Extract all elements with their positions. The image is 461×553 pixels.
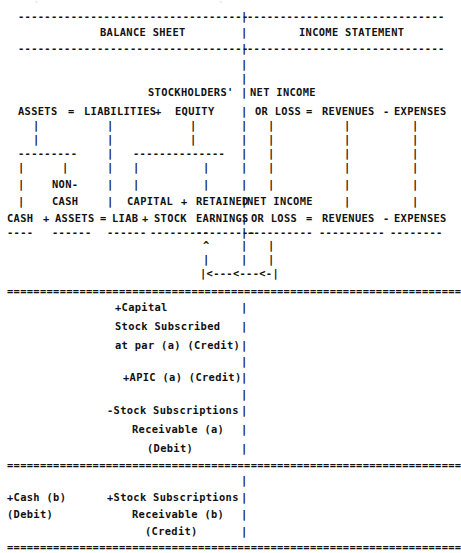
connector-expenses-3: | <box>412 147 419 159</box>
entry-b-pipe-1: | <box>241 474 248 486</box>
entry-a-line-3: at par (a) (Credit) <box>115 339 240 351</box>
plus-sign-2: + <box>181 195 188 207</box>
entry-b-left-line-2: (Debit) <box>7 508 53 520</box>
entry-b-pipe-3: | <box>241 508 248 520</box>
second-dashed-rule-left: ----------------------------------- <box>18 42 249 54</box>
leg-retained-1: | <box>203 161 210 173</box>
leg-expenses-1: | <box>412 161 419 173</box>
entry-a-line-2: Stock Subscribed <box>115 320 220 332</box>
entry-b-right-line-2: Receivable (b) <box>132 508 224 520</box>
connector-assets-2: | <box>33 133 40 145</box>
connector-netincome-3: | <box>268 147 275 159</box>
entry-a-line-5: -Stock Subscriptions <box>107 404 239 416</box>
connector-netincome-1: | <box>268 119 275 131</box>
center-divider-pipe-d: | <box>241 105 248 117</box>
underline-liab: ------ <box>107 226 147 238</box>
double-rule-1: ========================================… <box>7 285 461 297</box>
label-liab: LIAB <box>112 212 138 224</box>
label-expenses-bottom: EXPENSES <box>394 212 447 224</box>
leg-netincome-4: | <box>268 239 275 251</box>
label-stockholders: STOCKHOLDERS' <box>148 86 234 98</box>
label-capital: CAPITAL <box>127 195 173 207</box>
leg-liab-1: | <box>107 161 114 173</box>
center-divider-pipe-e: | <box>241 119 248 131</box>
connector-netincome-2: | <box>268 133 275 145</box>
equals-sign-2: = <box>306 105 313 117</box>
minus-sign-2: - <box>383 212 390 224</box>
underline-cash: ---- <box>7 226 33 238</box>
connector-liab-3: | <box>107 147 114 159</box>
leg-expenses-2: | <box>412 178 419 190</box>
center-divider-pipe-b: | <box>241 72 248 84</box>
connector-expenses-1: | <box>412 119 419 131</box>
label-revenues-top: REVENUES <box>322 105 375 117</box>
branch-rule-assets: --------- <box>18 147 77 159</box>
connector-revenues-3: | <box>344 147 351 159</box>
center-divider-pipe-i: | <box>241 178 248 190</box>
branch-rule-equity: -------------- <box>133 147 225 159</box>
label-revenues-bottom: REVENUES <box>322 212 375 224</box>
double-rule-3: ========================================… <box>7 541 461 553</box>
connector-expenses-2: | <box>412 133 419 145</box>
entry-a-pipe-5: | <box>241 371 248 383</box>
entry-a-pipe-4: | <box>241 355 248 367</box>
center-divider-pipe-c: | <box>241 86 248 98</box>
entry-a-line-7: (Debit) <box>147 442 193 454</box>
feedback-arrow-line: |<---<---<-| <box>200 267 279 279</box>
connector-liab-1: | <box>107 119 114 131</box>
center-divider-pipe-n: | <box>241 253 248 265</box>
cut-off-text-remnant: · · <box>20 0 224 8</box>
entry-a-pipe-7: | <box>241 404 248 416</box>
entry-b-pipe-4: | <box>241 525 248 537</box>
center-divider-pipe-g: | <box>241 147 248 159</box>
underline-netincome: ---------- <box>247 226 313 238</box>
entry-b-right-line-1: +Stock Subscriptions <box>107 491 239 503</box>
label-non: NON- <box>52 178 78 190</box>
leg-revenues-1: | <box>344 161 351 173</box>
label-or-loss-top: OR LOSS <box>255 105 301 117</box>
title-divider-pipe: | <box>241 26 248 38</box>
label-stock: STOCK <box>154 212 187 224</box>
center-divider-pipe-f: | <box>241 133 248 145</box>
leg-cash-2: | <box>18 178 25 190</box>
leg-cash-3: | <box>18 195 25 207</box>
leg-revenues-3: | <box>344 195 351 207</box>
leg-noncash-1: | <box>62 161 69 173</box>
entry-b-left-line-1: +Cash (b) <box>7 491 66 503</box>
equals-sign-4: = <box>306 212 313 224</box>
connector-equity-1: | <box>190 119 197 131</box>
label-cash: CASH <box>7 212 33 224</box>
entry-b-right-line-3: (Credit) <box>145 525 198 537</box>
underline-revenues: ---------- <box>319 226 385 238</box>
entry-a-pipe-2: | <box>241 320 248 332</box>
plus-sign-1: + <box>155 105 162 117</box>
header-income-statement: INCOME STATEMENT <box>299 26 404 38</box>
leg-netincome-2: | <box>268 178 275 190</box>
leg-netincome-5: | <box>268 253 275 265</box>
minus-sign-1: - <box>383 105 390 117</box>
equals-sign-3: = <box>100 212 107 224</box>
leg-netincome-1: | <box>268 161 275 173</box>
label-net-income-top: NET INCOME <box>250 86 316 98</box>
header-balance-sheet: BALANCE SHEET <box>100 26 186 38</box>
entry-a-pipe-8: | <box>241 423 248 435</box>
leg-cash-1: | <box>18 161 25 173</box>
entry-a-pipe-9: | <box>241 442 248 454</box>
underline-expenses: -------- <box>390 226 443 238</box>
leg-liab-2: | <box>107 178 114 190</box>
top-dashed-rule-left: ----------------------------------- <box>18 10 249 22</box>
entry-a-pipe-1: | <box>241 301 248 313</box>
connector-liab-2: | <box>107 133 114 145</box>
center-divider-pipe-m: | <box>241 239 248 251</box>
underline-assets: ------ <box>52 226 92 238</box>
entry-a-line-1: +Capital <box>115 301 168 313</box>
center-divider-pipe-k: | <box>241 212 248 224</box>
connector-assets-1: | <box>33 119 40 131</box>
entry-b-pipe-2: | <box>241 491 248 503</box>
entry-a-pipe-3: | <box>241 339 248 351</box>
leg-expenses-3: | <box>412 195 419 207</box>
center-divider-pipe-a: | <box>241 58 248 70</box>
label-equity: EQUITY <box>175 105 215 117</box>
leg-revenues-2: | <box>344 178 351 190</box>
